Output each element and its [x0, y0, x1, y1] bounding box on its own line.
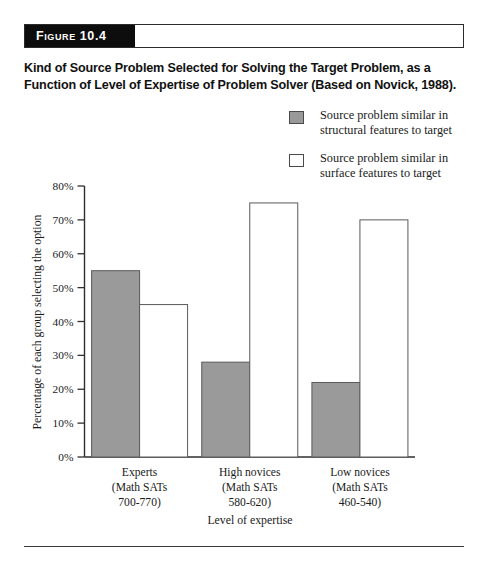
x-axis-category-label-line: (Math SATs	[112, 481, 168, 494]
y-axis-tick-label: 10%	[53, 417, 74, 429]
x-axis-title: Level of expertise	[207, 513, 292, 527]
x-axis-category-label-line: 700-770)	[118, 496, 161, 509]
y-axis-tick-label: 70%	[53, 214, 74, 226]
bar-group	[92, 203, 408, 457]
x-axis-category-label-line: (Math SATs	[222, 481, 278, 494]
y-axis-tick-label: 50%	[53, 282, 74, 294]
x-axis-category-label-line: 460-540)	[339, 496, 382, 509]
y-axis-tick-label: 60%	[53, 248, 74, 260]
bar	[250, 203, 298, 457]
x-axis-category-label-line: Experts	[122, 466, 158, 479]
x-axis-category-label-line: High novices	[219, 466, 281, 479]
bar	[312, 382, 360, 457]
bar	[202, 362, 250, 457]
y-axis-tick-label: 20%	[53, 383, 74, 395]
bar-chart: Percentage of each group selecting the o…	[0, 0, 488, 563]
bar	[360, 220, 408, 457]
y-axis-tick-label: 30%	[53, 349, 74, 361]
x-axis-category-label-line: 580-620)	[228, 496, 271, 509]
x-axis-category-label-line: (Math SATs	[332, 481, 388, 494]
bottom-rule	[24, 546, 464, 547]
bar	[92, 271, 140, 457]
bar	[140, 305, 188, 457]
y-axis-tick-label: 80%	[53, 180, 74, 192]
y-axis-tick-label: 0%	[58, 451, 74, 463]
figure-page: Figure 10.4 Kind of Source Problem Selec…	[0, 0, 488, 563]
x-axis-category-label-line: Low novices	[330, 466, 390, 479]
y-axis-title: Percentage of each group selecting the o…	[30, 214, 44, 429]
x-axis-category-labels: Experts(Math SATs700-770)High novices(Ma…	[112, 466, 390, 509]
y-axis-ticks: 0%10%20%30%40%50%60%70%80%	[53, 180, 85, 463]
y-axis-tick-label: 40%	[53, 316, 74, 328]
